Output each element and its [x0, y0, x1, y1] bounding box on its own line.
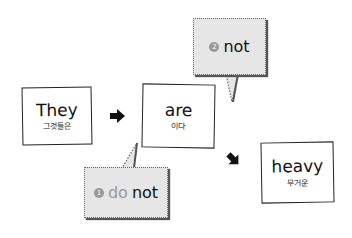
arrow-down-right-icon: [224, 150, 244, 170]
callout-do-not: 1 do not: [84, 167, 168, 218]
callout-word: not: [223, 37, 249, 56]
word-korean: 그것들은: [43, 123, 71, 131]
callout-prefix: do: [108, 183, 128, 202]
word-english: They: [36, 100, 78, 119]
word-box-are: are 이다: [141, 83, 215, 148]
word-english: heavy: [271, 157, 323, 177]
callout-word: not: [132, 183, 158, 202]
word-box-they: They 그것들은: [21, 86, 92, 145]
arrow-right-icon: [110, 109, 125, 123]
word-english: are: [165, 100, 193, 119]
word-korean: 이다: [171, 123, 185, 131]
word-korean: 무거운: [287, 180, 308, 188]
number-badge: 1: [94, 188, 104, 198]
number-badge: 2: [209, 42, 219, 52]
callout-not: 2 not: [193, 18, 266, 75]
word-box-heavy: heavy 무거운: [260, 141, 334, 203]
